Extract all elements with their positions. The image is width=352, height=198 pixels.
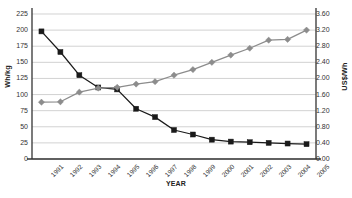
- x-axis-tick-label: 1995: [125, 163, 140, 178]
- x-axis-tick-label: 2003: [277, 163, 292, 178]
- x-axis-tick-label: 1996: [144, 163, 159, 178]
- x-axis-tick-label: 2004: [296, 163, 311, 178]
- x-axis-tick-label: 2001: [239, 163, 254, 178]
- x-axis-tick-label: 1993: [88, 163, 103, 178]
- x-axis-tick-label: 2000: [220, 163, 235, 178]
- x-axis-tick-label: 1991: [50, 163, 65, 178]
- x-axis-title: YEAR: [0, 180, 352, 187]
- chart-container: 0255075100125150175200225 0.000.400.801.…: [0, 0, 352, 198]
- x-axis-tick-label: 1997: [163, 163, 178, 178]
- right-axis-title: US$/Wh: [340, 57, 349, 97]
- x-axis-tick-label: 1992: [69, 163, 84, 178]
- x-axis-tick-label: 1994: [107, 163, 122, 178]
- x-axis-tick-label: 2002: [258, 163, 273, 178]
- x-axis-tick-label: 2005: [315, 163, 330, 178]
- x-axis-tick-label: 1999: [201, 163, 216, 178]
- x-axis-ticks: 1991199219931994199519961997199819992000…: [0, 0, 352, 198]
- left-axis-title: Wh/kg: [3, 57, 12, 97]
- x-axis-tick-label: 1998: [182, 163, 197, 178]
